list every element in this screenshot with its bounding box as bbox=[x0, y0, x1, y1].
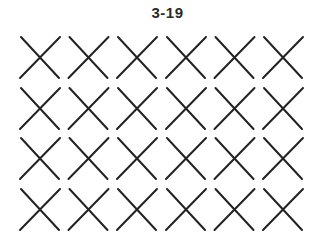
x-mark bbox=[263, 88, 303, 129]
x-mark bbox=[69, 37, 109, 78]
x-mark bbox=[215, 88, 255, 129]
x-mark bbox=[20, 189, 60, 230]
x-mark bbox=[20, 88, 60, 129]
x-mark bbox=[263, 138, 303, 179]
x-mark bbox=[215, 138, 255, 179]
x-mark bbox=[20, 37, 60, 78]
x-mark bbox=[166, 138, 206, 179]
x-mark bbox=[117, 88, 157, 129]
x-mark bbox=[69, 138, 109, 179]
x-mark bbox=[263, 189, 303, 230]
x-mark bbox=[117, 138, 157, 179]
x-mark bbox=[215, 37, 255, 78]
x-mark bbox=[20, 138, 60, 179]
x-mark bbox=[69, 88, 109, 129]
x-mark bbox=[117, 189, 157, 230]
x-grid bbox=[0, 0, 335, 245]
x-mark bbox=[166, 37, 206, 78]
x-mark bbox=[69, 189, 109, 230]
x-mark bbox=[117, 37, 157, 78]
x-mark bbox=[166, 88, 206, 129]
x-mark bbox=[166, 189, 206, 230]
x-mark bbox=[263, 37, 303, 78]
x-mark bbox=[215, 189, 255, 230]
